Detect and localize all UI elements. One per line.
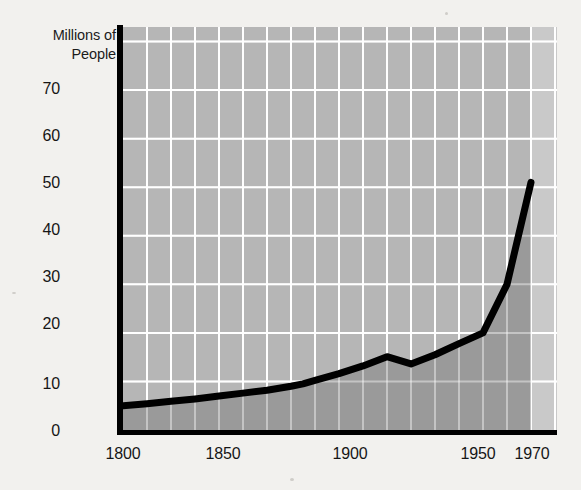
post-1970-band [531, 27, 557, 430]
page-speckle [290, 478, 294, 481]
x-tick-label-1900: 1900 [320, 446, 380, 462]
area-fill [123, 182, 531, 430]
y-tick-label-40: 40 [14, 222, 60, 238]
y-axis-rule [117, 25, 123, 433]
page-speckle [12, 292, 16, 294]
y-tick-label-60: 60 [14, 128, 60, 144]
y-axis-title: Millions of People [14, 26, 116, 64]
y-tick-label-30: 30 [14, 269, 60, 285]
y-tick-label-20: 20 [14, 316, 60, 332]
x-axis-rule [117, 430, 557, 435]
x-tick-label-1970: 1970 [502, 446, 562, 462]
population-area-chart: Millions of People 70 60 50 40 30 20 10 … [0, 0, 581, 490]
y-tick-label-70: 70 [14, 81, 60, 97]
plot-area [123, 27, 557, 430]
x-tick-label-1850: 1850 [193, 446, 253, 462]
x-tick-label-1950: 1950 [448, 446, 508, 462]
x-tick-label-1800: 1800 [93, 446, 153, 462]
y-tick-label-10: 10 [14, 376, 60, 392]
y-tick-label-50: 50 [14, 175, 60, 191]
page-speckle [445, 12, 448, 15]
plot-canvas [123, 27, 557, 430]
y-tick-label-0: 0 [14, 423, 60, 439]
